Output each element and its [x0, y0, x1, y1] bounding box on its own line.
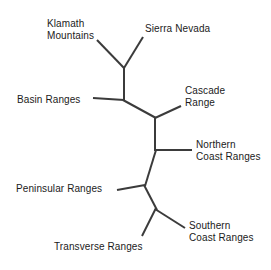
label-peninsular-ranges-line1: Peninsular Ranges: [16, 183, 102, 195]
label-transverse-ranges-line1: Transverse Ranges: [54, 241, 143, 253]
label-northern-coast-ranges: Northern Coast Ranges: [196, 139, 261, 162]
tree-diagram: Klamath Mountains Sierra Nevada Basin Ra…: [0, 0, 271, 270]
label-northern-coast-ranges-line1: Northern: [196, 139, 261, 151]
branch-node5-node6: [144, 185, 157, 210]
label-sierra-nevada: Sierra Nevada: [145, 23, 210, 35]
branch-node2-node3: [123, 100, 156, 118]
label-southern-coast-ranges-line1: Southern: [189, 220, 254, 232]
branch-basin-ranges: [93, 98, 124, 100]
branch-peninsular-ranges: [117, 185, 145, 190]
branch-cascade-range: [155, 106, 181, 118]
branch-sierra-nevada: [124, 37, 143, 68]
label-klamath-mountains-line1: Klamath: [47, 18, 94, 30]
label-cascade-range: Cascade Range: [185, 85, 225, 108]
label-transverse-ranges: Transverse Ranges: [54, 241, 143, 253]
branch-node4-node5: [145, 150, 156, 186]
label-southern-coast-ranges: Southern Coast Ranges: [189, 220, 254, 243]
label-cascade-range-line1: Cascade: [185, 85, 225, 97]
label-peninsular-ranges: Peninsular Ranges: [16, 183, 102, 195]
branch-klamath-mountains: [97, 40, 124, 68]
label-southern-coast-ranges-line2: Coast Ranges: [189, 232, 254, 244]
branch-transverse-ranges: [142, 208, 156, 236]
label-cascade-range-line2: Range: [185, 97, 225, 109]
branch-southern-coast-ranges: [155, 209, 185, 228]
label-basin-ranges: Basin Ranges: [17, 94, 80, 106]
label-klamath-mountains-line2: Mountains: [47, 30, 94, 42]
label-sierra-nevada-line1: Sierra Nevada: [145, 23, 210, 35]
label-klamath-mountains: Klamath Mountains: [47, 18, 94, 41]
label-northern-coast-ranges-line2: Coast Ranges: [196, 151, 261, 163]
label-basin-ranges-line1: Basin Ranges: [17, 94, 80, 106]
